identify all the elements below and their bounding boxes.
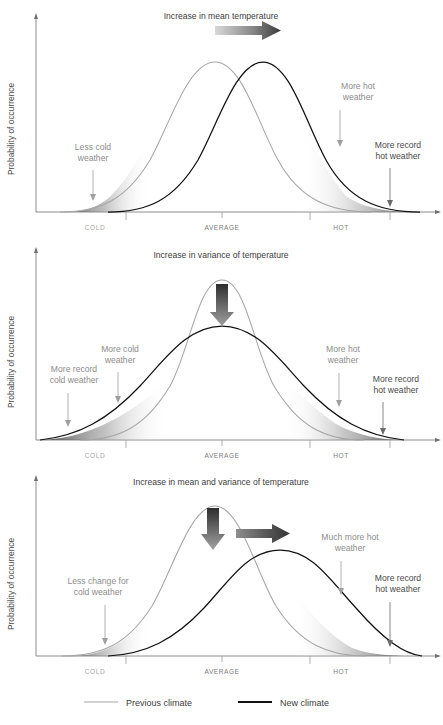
mean-shift-arrow-icon <box>215 21 281 40</box>
x-axis-arrowhead <box>435 438 441 442</box>
legend-label-previous-climate: Previous climate <box>126 698 192 708</box>
x-axis-ticks <box>126 440 390 448</box>
x-tick-label-average: AVERAGE <box>205 224 240 231</box>
annotation-more-record-hot-weather: More record hot weather <box>373 374 420 435</box>
hot-tail-shading <box>300 120 418 212</box>
legend-label-new-climate: New climate <box>280 698 329 708</box>
x-tick-label-hot: HOT <box>333 668 348 675</box>
variance-arrow-icon <box>210 284 234 326</box>
hot-tail-shading <box>292 588 420 656</box>
mean-shift-arrow-icon <box>236 524 290 543</box>
y-axis-label: Probability of occurrence <box>6 315 16 408</box>
annotation-arrowhead <box>380 428 386 435</box>
panel-3-chart: Probability of occurrence Increase in me… <box>0 468 443 683</box>
annotation-arrowhead <box>65 420 71 427</box>
annotation-less-change-cold-weather: Less change for cold weather <box>67 576 128 645</box>
annotation-line-1: More hot <box>341 81 376 91</box>
annotation-more-cold-weather: More cold weather <box>101 344 139 403</box>
annotation-line-1: More record <box>373 374 420 384</box>
annotation-much-more-hot-weather: Much more hot weather <box>321 532 379 595</box>
annotation-arrowhead <box>336 400 342 407</box>
annotation-line-2: weather <box>327 355 359 365</box>
annotation-more-record-cold-weather: More record cold weather <box>50 364 99 427</box>
annotation-line-2: weather <box>104 355 136 365</box>
annotation-line-1: Less change for <box>67 576 128 586</box>
x-tick-label-hot: HOT <box>333 224 348 231</box>
x-axis-tick-labels: COLD AVERAGE HOT <box>85 452 349 459</box>
cold-tail-shading <box>44 382 168 440</box>
legend-item-previous-climate: Previous climate <box>84 698 192 708</box>
annotation-line-2: hot weather <box>376 151 421 161</box>
y-axis-arrowhead <box>34 247 38 253</box>
x-tick-label-cold: COLD <box>85 452 105 459</box>
annotation-more-hot-weather: More hot weather <box>326 344 361 407</box>
x-axis-tick-labels: COLD AVERAGE HOT <box>85 668 349 675</box>
annotation-more-hot-weather: More hot weather <box>337 81 376 147</box>
legend-item-new-climate: New climate <box>238 698 329 708</box>
annotation-line-1: More record <box>375 140 422 150</box>
panel-1-title: Increase in mean temperature <box>164 11 279 21</box>
annotation-arrowhead <box>337 140 343 147</box>
y-axis-label: Probability of occurrence <box>6 82 16 175</box>
annotation-more-record-hot-weather: More record hot weather <box>375 140 422 207</box>
annotation-line-2: hot weather <box>376 584 421 594</box>
x-axis-tick-labels: COLD AVERAGE HOT <box>85 224 349 231</box>
x-axis-arrowhead <box>435 210 441 214</box>
y-axis-label: Probability of occurrence <box>6 537 16 630</box>
panel-2-chart: Probability of occurrence Increase in va… <box>0 240 443 468</box>
x-axis-arrowhead <box>435 654 441 658</box>
x-tick-label-average: AVERAGE <box>205 668 240 675</box>
annotation-arrowhead <box>115 396 121 403</box>
panel-2-title: Increase in variance of temperature <box>153 250 288 260</box>
annotation-line-2: weather <box>342 92 374 102</box>
x-tick-label-hot: HOT <box>333 452 348 459</box>
annotation-line-2: weather <box>77 153 109 163</box>
panel-increase-in-variance: Probability of occurrence Increase in va… <box>0 240 443 468</box>
panel-increase-in-mean: Probability of occurrence Increase in me… <box>0 0 443 240</box>
x-tick-label-cold: COLD <box>85 668 105 675</box>
annotation-line-1: More record <box>51 364 98 374</box>
x-axis-ticks <box>126 212 390 220</box>
annotation-line-1: Less cold <box>75 142 112 152</box>
panel-3-title: Increase in mean and variance of tempera… <box>133 477 309 487</box>
chart-legend: Previous climate New climate <box>0 683 443 725</box>
annotation-arrowhead <box>90 194 96 201</box>
curve-new-climate <box>108 550 422 656</box>
panel-increase-in-mean-and-variance: Probability of occurrence Increase in me… <box>0 468 443 683</box>
cold-tail-shading <box>68 618 150 656</box>
annotation-line-2: cold weather <box>74 587 123 597</box>
legend-svg: Previous climate New climate <box>0 683 443 725</box>
annotation-line-1: Much more hot <box>321 532 379 542</box>
y-axis-arrowhead <box>34 13 38 19</box>
variance-arrow-icon <box>201 508 225 550</box>
x-axis-ticks <box>126 656 390 664</box>
annotation-line-1: More record <box>375 573 422 583</box>
annotation-arrowhead <box>102 638 108 645</box>
annotation-arrowhead <box>387 200 393 207</box>
annotation-line-1: More cold <box>101 344 139 354</box>
x-tick-label-cold: COLD <box>85 224 105 231</box>
annotation-line-1: More hot <box>326 344 361 354</box>
annotation-line-2: cold weather <box>50 375 99 385</box>
annotation-less-cold-weather: Less cold weather <box>75 142 112 201</box>
annotation-more-record-hot-weather: More record hot weather <box>375 573 422 647</box>
panel-1-chart: Probability of occurrence Increase in me… <box>0 0 443 240</box>
x-tick-label-average: AVERAGE <box>205 452 240 459</box>
y-axis-arrowhead <box>34 475 38 481</box>
annotation-line-2: hot weather <box>374 385 419 395</box>
annotation-line-2: weather <box>334 543 366 553</box>
